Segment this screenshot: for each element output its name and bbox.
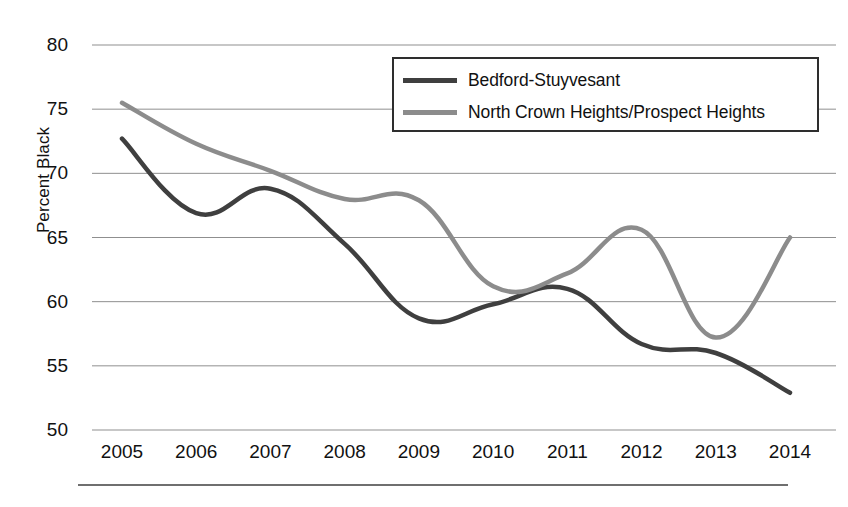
series-line xyxy=(122,103,790,338)
x-tick-label: 2005 xyxy=(101,441,143,463)
series-lines xyxy=(122,103,790,393)
x-tick-label: 2006 xyxy=(175,441,217,463)
legend-item-label: North Crown Heights/Prospect Heights xyxy=(468,102,765,123)
x-tick-label: 2013 xyxy=(695,441,737,463)
x-tick-label: 2009 xyxy=(398,441,440,463)
legend-item-label: Bedford-Stuyvesant xyxy=(468,70,620,91)
legend-color-swatch xyxy=(403,78,457,83)
x-tick-label: 2014 xyxy=(769,441,811,463)
legend-item[interactable]: Bedford-Stuyvesant xyxy=(394,64,817,96)
x-tick-label: 2007 xyxy=(249,441,291,463)
x-tick-label: 2010 xyxy=(472,441,514,463)
x-axis-tick-labels: 2005200620072008200920102011201220132014 xyxy=(0,441,848,471)
x-tick-label: 2008 xyxy=(324,441,366,463)
chart-legend: Bedford-StuyvesantNorth Crown Heights/Pr… xyxy=(392,57,819,132)
x-tick-label: 2012 xyxy=(620,441,662,463)
legend-item[interactable]: North Crown Heights/Prospect Heights xyxy=(394,96,817,128)
footer-divider xyxy=(78,484,788,486)
series-line xyxy=(122,139,790,393)
line-chart: Percent Black 80757065605550 20052006200… xyxy=(0,0,848,507)
legend-color-swatch xyxy=(403,110,457,115)
x-tick-label: 2011 xyxy=(547,441,588,463)
